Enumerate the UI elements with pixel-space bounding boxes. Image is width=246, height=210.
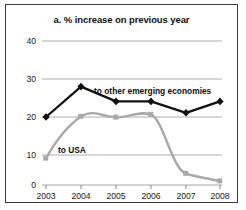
chart-plot-area: 40 30 20 10 0 2003 2004 2005 2006 2007 2… — [6, 5, 239, 204]
y-tick-label-10: 10 — [26, 150, 36, 160]
x-tick-label-2007: 2007 — [176, 191, 195, 201]
chart-card: a. % increase on previous year 40 30 20 … — [5, 4, 238, 203]
x-tick-label-2008: 2008 — [210, 191, 229, 201]
series-annotation-to-usa: to USA — [58, 145, 86, 155]
x-tick-label-2005: 2005 — [106, 191, 125, 201]
x-tick-label-2004: 2004 — [71, 191, 90, 201]
x-tick-label-2006: 2006 — [141, 191, 160, 201]
y-tick-label-0: 0 — [31, 180, 36, 190]
y-tick-label-40: 40 — [26, 36, 36, 46]
series-annotation-other-emerging-economies: to other emerging economies — [94, 86, 212, 96]
y-tick-label-30: 30 — [26, 74, 36, 84]
y-tick-label-20: 20 — [26, 112, 36, 122]
x-tick-label-2003: 2003 — [36, 191, 55, 201]
